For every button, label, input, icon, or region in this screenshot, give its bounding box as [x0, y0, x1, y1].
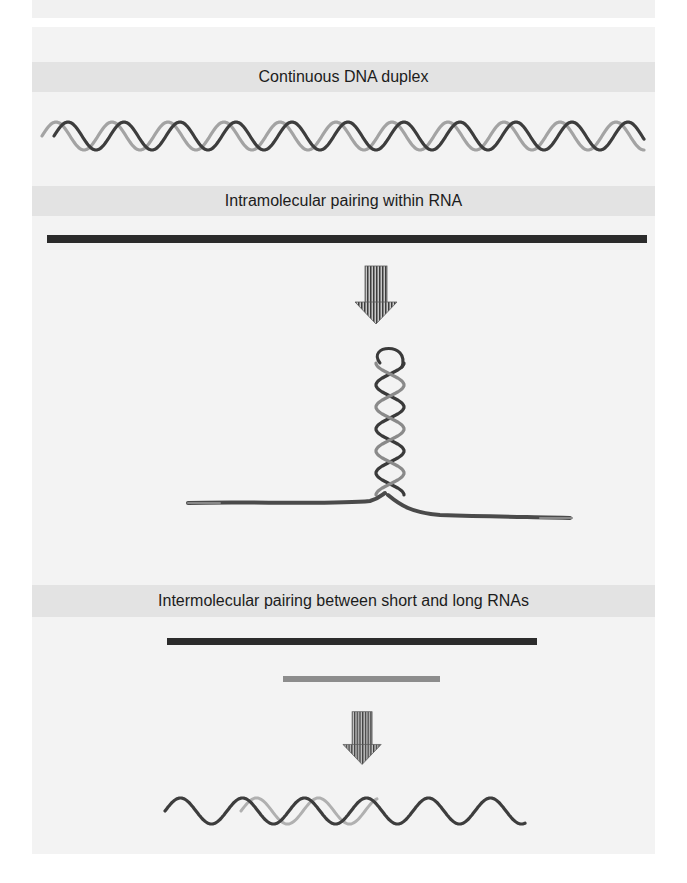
long-rna-strand [47, 235, 647, 243]
double-helix-icon [40, 118, 650, 154]
long-rna-strand [167, 638, 537, 645]
top-strip [32, 0, 655, 18]
down-arrow-icon [355, 266, 399, 326]
section-title: Intermolecular pairing between short and… [158, 592, 529, 610]
section-header-dna-duplex: Continuous DNA duplex [32, 62, 655, 92]
section-title: Continuous DNA duplex [259, 68, 429, 86]
section-header-intramolecular: Intramolecular pairing within RNA [32, 186, 655, 216]
section-title: Intramolecular pairing within RNA [225, 192, 462, 210]
partial-duplex-icon [163, 793, 529, 829]
section-header-intermolecular: Intermolecular pairing between short and… [32, 585, 655, 617]
down-arrow-icon [343, 711, 383, 767]
rna-hairpin-icon [180, 345, 580, 550]
short-rna-strand [283, 676, 440, 682]
